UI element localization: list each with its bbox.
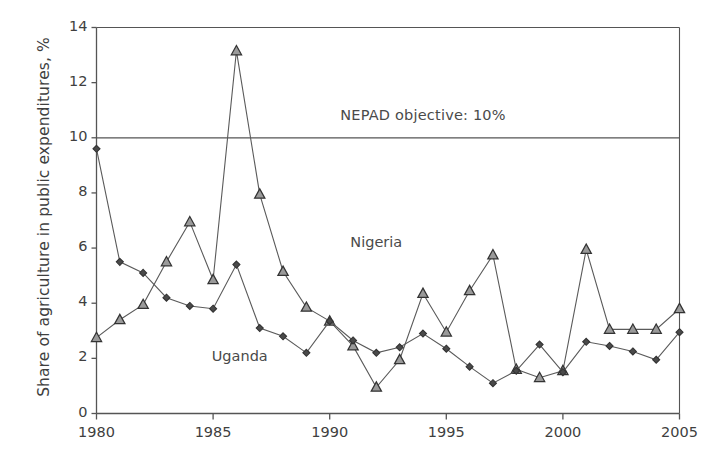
- data-point-marker: [278, 266, 288, 275]
- axes: [97, 28, 680, 414]
- y-tick-label: 10: [54, 128, 88, 144]
- x-tick-label: 2005: [650, 424, 709, 440]
- data-point-marker: [301, 302, 311, 311]
- x-axis-ticks: [97, 414, 680, 420]
- y-axis-title: Share of agriculture in public expenditu…: [35, 7, 53, 427]
- data-point-marker: [116, 258, 123, 265]
- data-point-marker: [186, 302, 193, 309]
- data-point-marker: [93, 145, 100, 152]
- data-point-marker: [651, 324, 661, 333]
- uganda-label-text: Uganda: [212, 348, 268, 364]
- chart-figure: Share of agriculture in public expenditu…: [0, 0, 709, 469]
- data-point-marker: [161, 256, 171, 265]
- data-point-marker: [489, 380, 496, 387]
- x-tick-label: 1990: [300, 424, 360, 440]
- data-point-marker: [208, 274, 218, 283]
- x-tick-label: 1980: [67, 424, 127, 440]
- data-point-marker: [418, 288, 428, 297]
- nigeria-label-text: Nigeria: [350, 234, 402, 250]
- data-point-marker: [233, 261, 240, 268]
- y-tick-label: 14: [54, 18, 88, 34]
- y-tick-label: 6: [54, 238, 88, 254]
- data-point-marker: [280, 333, 287, 340]
- data-point-marker: [395, 354, 405, 363]
- data-point-marker: [91, 332, 101, 341]
- data-point-marker: [674, 303, 684, 312]
- y-tick-label: 8: [54, 183, 88, 199]
- data-point-marker: [464, 285, 474, 294]
- x-tick-label: 1995: [416, 424, 476, 440]
- x-tick-label: 1985: [183, 424, 243, 440]
- y-tick-label: 2: [54, 348, 88, 364]
- y-tick-label: 12: [54, 73, 88, 89]
- series-uganda: [93, 145, 683, 386]
- data-point-marker: [255, 189, 265, 198]
- data-point-marker: [419, 330, 426, 337]
- data-point-marker: [604, 324, 614, 333]
- data-point-marker: [373, 349, 380, 356]
- data-point-marker: [396, 344, 403, 351]
- data-point-marker: [210, 305, 217, 312]
- data-point-marker: [629, 348, 636, 355]
- data-point-marker: [581, 244, 591, 253]
- data-point-marker: [115, 314, 125, 323]
- y-axis-ticks: [92, 28, 97, 414]
- series-nigeria: [91, 46, 684, 392]
- data-point-marker: [256, 325, 263, 332]
- y-tick-label: 0: [54, 404, 88, 420]
- data-point-marker: [628, 324, 638, 333]
- y-tick-label: 4: [54, 293, 88, 309]
- data-point-marker: [138, 299, 148, 308]
- x-tick-label: 2000: [533, 424, 593, 440]
- data-point-marker: [488, 250, 498, 259]
- data-point-marker: [231, 46, 241, 55]
- nepad-objective-text: NEPAD objective: 10%: [340, 107, 505, 123]
- data-point-marker: [606, 342, 613, 349]
- data-point-marker: [185, 216, 195, 225]
- data-point-marker: [441, 327, 451, 336]
